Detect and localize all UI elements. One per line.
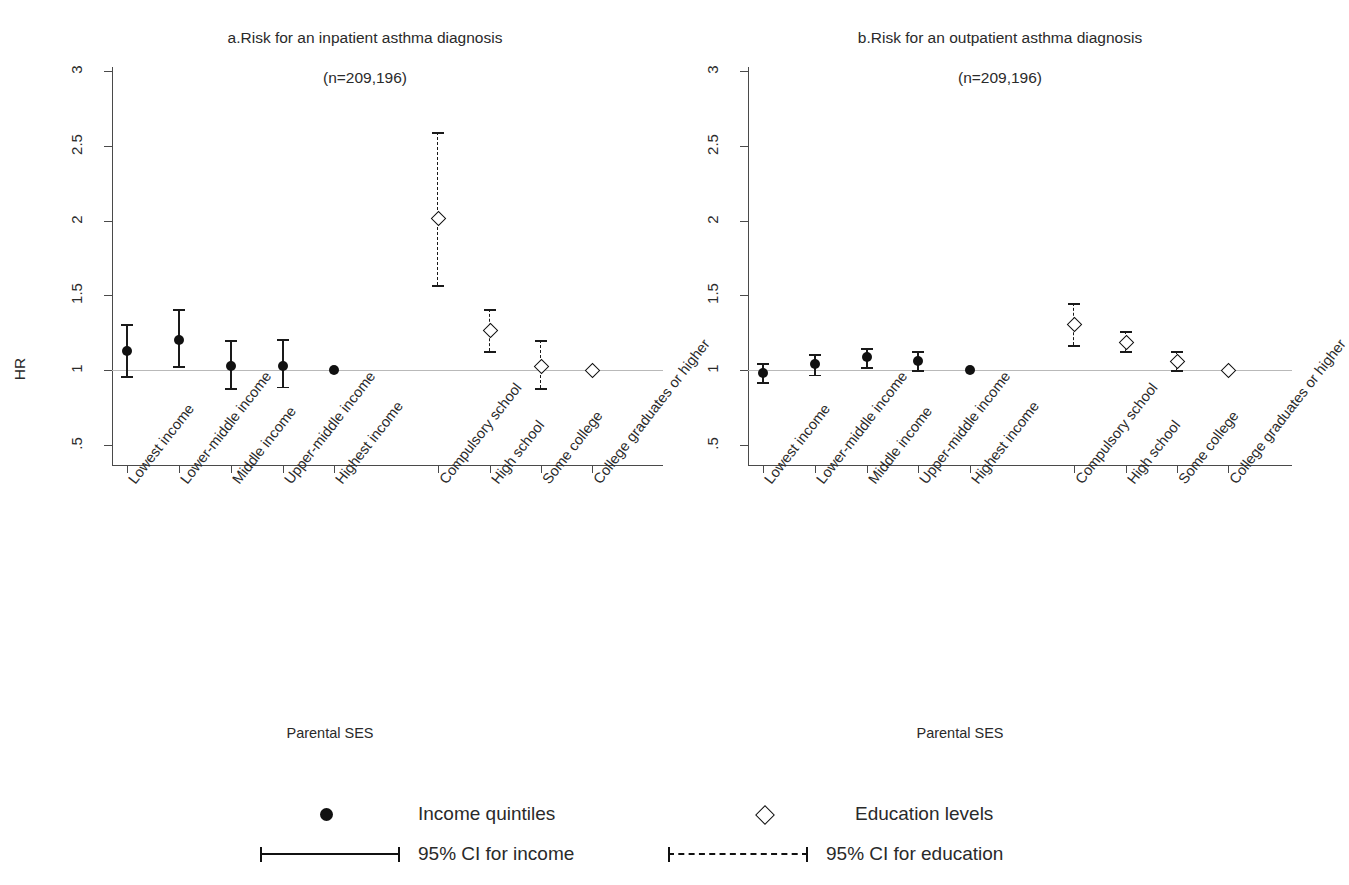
y-axis-tick [104,370,112,371]
confidence-interval-cap-upper [861,348,873,350]
confidence-interval-cap-upper [277,339,289,341]
y-axis-tick-label: .5 [68,424,85,464]
confidence-interval-cap-upper [173,309,185,311]
y-axis-tick [740,146,748,147]
point-marker-circle [810,359,820,369]
confidence-interval-cap-upper [757,363,769,365]
confidence-interval-cap-lower [121,376,133,378]
x-axis-tick-label: Lower-middle income [177,368,274,486]
panel-a-title: a.Risk for an inpatient asthma diagnosis… [130,8,600,108]
point-marker-circle [862,352,872,362]
confidence-interval-cap-lower [1171,370,1183,372]
confidence-interval-cap-lower [432,285,444,287]
point-marker-circle [965,365,975,375]
confidence-interval-cap-lower [277,387,289,389]
point-marker-diamond [1221,363,1237,379]
point-marker-diamond [431,210,447,226]
confidence-interval-cap-upper [535,340,547,342]
y-axis-line [112,67,113,465]
legend-income-ci-label: 95% CI for income [418,843,574,865]
x-axis-tick-label: Lower-middle income [813,368,910,486]
y-axis-tick [740,445,748,446]
panel-a-subtitle: (n=209,196) [130,68,600,88]
y-axis-tick [740,370,748,371]
confidence-interval-cap-upper [484,309,496,311]
y-axis-tick-label: 3 [704,50,721,90]
confidence-interval-cap-upper [121,324,133,326]
confidence-interval-cap-upper [1120,331,1132,333]
y-axis-line [748,67,749,465]
y-axis-label: HR [11,349,29,389]
point-marker-diamond [1067,317,1083,333]
panel-b-x-axis-label: Parental SES [860,725,1060,741]
point-marker-circle [226,361,236,371]
confidence-interval-cap-upper [1068,303,1080,305]
y-axis-tick-label: 2 [68,199,85,239]
point-marker-diamond [1170,354,1186,370]
y-axis-tick [740,295,748,296]
confidence-interval-line [437,132,438,285]
y-axis-tick-label: 1.5 [704,274,721,314]
legend-education-ci-label: 95% CI for education [826,843,1003,865]
panel-a-x-axis-label: Parental SES [230,725,430,741]
legend-income-marker-label: Income quintiles [418,803,555,825]
y-axis-tick-label: 1.5 [68,274,85,314]
confidence-interval-cap-upper [225,340,237,342]
point-marker-circle [758,368,768,378]
confidence-interval-cap-lower [809,375,821,377]
confidence-interval-cap-upper [912,351,924,353]
point-marker-circle [278,361,288,371]
y-axis-tick [104,146,112,147]
y-axis-tick [104,221,112,222]
y-axis-tick-label: 2 [704,199,721,239]
point-marker-diamond [1119,334,1135,350]
point-marker-circle [329,365,339,375]
confidence-interval-cap-lower [912,370,924,372]
point-marker-diamond [585,363,601,379]
confidence-interval-cap-lower [225,388,237,390]
confidence-interval-cap-lower [173,366,185,368]
legend-income-marker-icon [320,808,333,821]
y-axis-tick [740,71,748,72]
x-axis-tick-label: Upper-middle income [281,368,378,486]
y-axis-tick [104,295,112,296]
confidence-interval-cap-upper [432,132,444,134]
point-marker-circle [913,356,923,366]
confidence-interval-cap-lower [535,388,547,390]
point-marker-circle [174,335,184,345]
confidence-interval-cap-lower [1120,351,1132,353]
x-axis-tick-label: Upper-middle income [916,368,1013,486]
legend-education-marker-icon [755,805,775,825]
y-axis-tick-label: 2.5 [704,124,721,164]
confidence-interval-cap-lower [1068,345,1080,347]
y-axis-tick-label: 2.5 [68,124,85,164]
panel-a-title-line1: a.Risk for an inpatient asthma diagnosis [130,28,600,48]
confidence-interval-cap-lower [861,367,873,369]
y-axis-tick-label: .5 [704,424,721,464]
legend-education-marker-label: Education levels [855,803,993,825]
panel-b-title-line1: b.Risk for an outpatient asthma diagnosi… [760,28,1240,48]
reference-line-hr-1 [112,370,663,371]
y-axis-tick [104,71,112,72]
y-axis-tick-label: 1 [704,349,721,389]
confidence-interval-cap-lower [484,351,496,353]
y-axis-tick [740,221,748,222]
y-axis-tick-label: 1 [68,349,85,389]
reference-line-hr-1 [748,370,1292,371]
point-marker-diamond [483,323,499,339]
y-axis-tick-label: 3 [68,50,85,90]
confidence-interval-cap-upper [809,354,821,356]
panel-b-title: b.Risk for an outpatient asthma diagnosi… [760,8,1240,108]
point-marker-diamond [534,358,550,374]
panel-b-subtitle: (n=209,196) [760,68,1240,88]
point-marker-circle [122,346,132,356]
y-axis-tick [104,445,112,446]
confidence-interval-cap-lower [757,382,769,384]
